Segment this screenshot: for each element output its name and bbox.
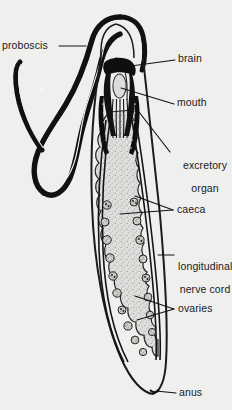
label-excretory-organ-line1: excretory — [183, 159, 227, 171]
label-proboscis: proboscis — [2, 40, 48, 52]
label-nerve-cord-line1: longitudinal — [178, 260, 232, 272]
label-nerve-cord-line2: nerve cord — [180, 283, 231, 295]
label-anus: anus — [179, 387, 202, 399]
label-mouth: mouth — [177, 97, 207, 109]
anatomy-figure: proboscis brain mouth excretory organ ca… — [0, 0, 232, 410]
label-excretory-organ-line2: organ — [191, 182, 218, 194]
label-caeca: caeca — [177, 204, 206, 216]
label-brain: brain — [178, 53, 202, 65]
mouth-cavity — [113, 74, 126, 98]
label-ovaries: ovaries — [178, 303, 213, 315]
